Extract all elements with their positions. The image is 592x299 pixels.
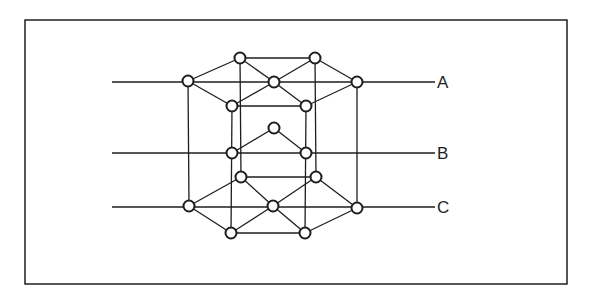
atoms [183, 53, 363, 239]
layer-label-a: A [437, 73, 449, 92]
atom-circle [236, 172, 247, 183]
bond-line [305, 106, 306, 233]
atom-circle [352, 203, 363, 214]
bond-line [274, 58, 315, 82]
layer-label-b: B [437, 144, 448, 163]
atom-circle [352, 77, 363, 88]
bond-line [188, 81, 189, 206]
atom-circle [184, 201, 195, 212]
atom-circle [268, 201, 279, 212]
atom-circle [310, 53, 321, 64]
bond-line [188, 58, 240, 81]
bond-line [306, 82, 357, 106]
atom-circle [227, 101, 238, 112]
bond-line [305, 208, 357, 233]
bond-line [240, 58, 241, 177]
atom-circle [300, 228, 311, 239]
bond-line [232, 82, 274, 106]
bond-line [188, 81, 232, 106]
bond-line [316, 177, 357, 208]
atom-circle [183, 76, 194, 87]
layer-labels: A B C [437, 73, 449, 217]
layer-label-c: C [437, 198, 449, 217]
layer-lines [112, 82, 435, 207]
atom-circle [301, 148, 312, 159]
atom-circle [301, 101, 312, 112]
crystal-structure-diagram: A B C [0, 0, 592, 299]
bond-line [232, 128, 274, 153]
bond-line [189, 206, 231, 233]
bond-line [231, 106, 232, 233]
atom-circle [311, 172, 322, 183]
atom-circle [235, 53, 246, 64]
atom-circle [269, 123, 280, 134]
bond-line [231, 206, 273, 233]
atom-circle [269, 77, 280, 88]
diagram-frame [25, 20, 567, 284]
atom-circle [226, 228, 237, 239]
bond-line [273, 177, 316, 206]
atom-circle [227, 148, 238, 159]
bond-line [189, 177, 241, 206]
bond-line [315, 58, 316, 177]
bond-line [315, 58, 357, 82]
